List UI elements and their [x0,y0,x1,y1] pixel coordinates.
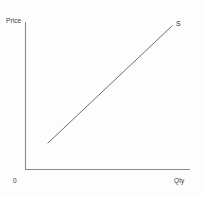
origin-label: 0 [13,178,17,185]
x-axis-label: Qty [174,178,184,185]
supply-curve-figure: Price Qty 0 S [0,0,202,197]
chart-canvas [0,0,202,197]
y-axis-label: Price [6,18,21,25]
supply-curve-line [48,26,172,143]
supply-curve-label: S [176,20,181,27]
